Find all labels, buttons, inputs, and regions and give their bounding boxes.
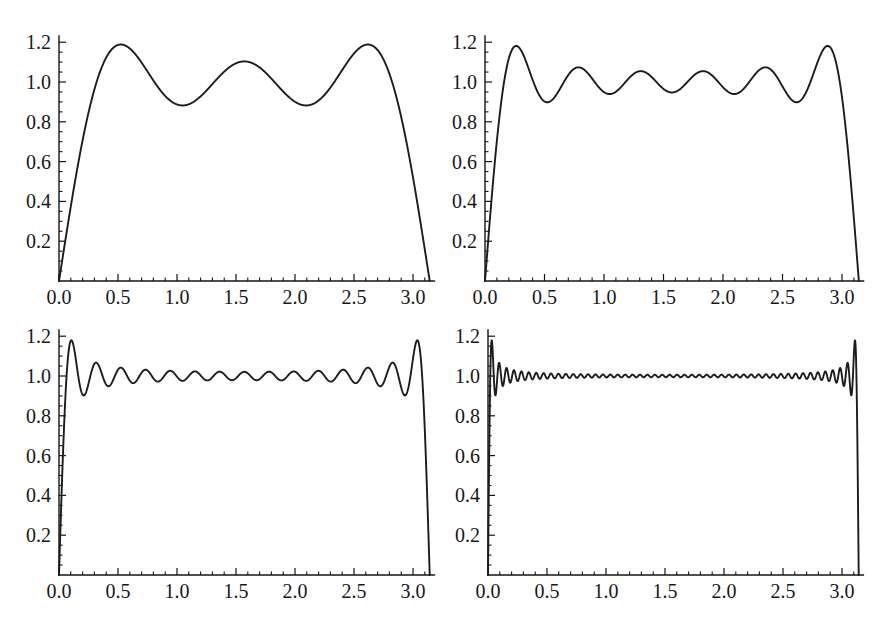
fourier-partial-sum-curve-S15 (59, 340, 430, 575)
x-tick-label: 2.0 (711, 286, 736, 308)
y-tick-label: 0.8 (26, 405, 51, 427)
x-tick-label: 0.0 (473, 286, 498, 308)
y-tick-label: 0.6 (452, 151, 477, 173)
x-tick-label: 2.0 (712, 580, 737, 602)
x-tick-label: 0.5 (535, 580, 560, 602)
x-tick-label: 1.0 (592, 286, 617, 308)
plot-canvas-top-left: 0.00.51.01.52.02.53.00.20.40.60.81.01.2 (0, 0, 443, 313)
x-tick-label: 1.5 (651, 286, 676, 308)
y-tick-label: 0.6 (26, 151, 51, 173)
y-tick-label: 0.2 (26, 230, 51, 252)
y-tick-label: 1.0 (26, 71, 51, 93)
fourier-partial-sum-curve-S50 (488, 340, 859, 575)
x-tick-label: 0.0 (476, 580, 501, 602)
x-tick-label: 2.5 (342, 286, 367, 308)
y-tick-label: 1.0 (455, 365, 480, 387)
y-tick-label: 0.6 (455, 445, 480, 467)
y-tick-label: 0.2 (455, 524, 480, 546)
y-tick-label: 0.4 (26, 190, 51, 212)
x-tick-label: 1.5 (224, 580, 249, 602)
x-tick-label: 3.0 (830, 580, 855, 602)
x-tick-label: 0.0 (47, 286, 72, 308)
plot-partial-sum-3-terms: 0.00.51.01.52.02.53.00.20.40.60.81.01.2 (0, 0, 443, 313)
x-tick-label: 3.0 (401, 580, 426, 602)
y-tick-label: 1.0 (26, 365, 51, 387)
y-tick-label: 0.4 (455, 484, 480, 506)
plot-canvas-bottom-left: 0.00.51.01.52.02.53.00.20.40.60.81.01.2 (0, 313, 443, 627)
x-tick-label: 3.0 (830, 286, 855, 308)
x-tick-label: 0.0 (47, 580, 72, 602)
y-tick-label: 0.4 (26, 484, 51, 506)
x-tick-label: 0.5 (106, 286, 131, 308)
x-tick-label: 1.0 (165, 286, 190, 308)
y-tick-label: 1.0 (452, 71, 477, 93)
x-tick-label: 3.0 (401, 286, 426, 308)
x-tick-label: 2.0 (283, 580, 308, 602)
y-tick-label: 1.2 (26, 31, 51, 53)
plot-canvas-bottom-right: 0.00.51.01.52.02.53.00.20.40.60.81.01.2 (443, 313, 887, 627)
y-tick-label: 1.2 (452, 31, 477, 53)
x-tick-label: 1.5 (653, 580, 678, 602)
plot-partial-sum-15-terms: 0.00.51.01.52.02.53.00.20.40.60.81.01.2 (0, 313, 443, 627)
x-tick-label: 1.0 (594, 580, 619, 602)
x-tick-label: 2.5 (342, 580, 367, 602)
fourier-partial-sum-curve-S6 (485, 46, 859, 281)
x-tick-label: 0.5 (532, 286, 557, 308)
x-tick-label: 2.5 (771, 580, 796, 602)
fourier-partial-sum-curve-S3 (59, 45, 430, 281)
gibbs-phenomenon-figure: 0.00.51.01.52.02.53.00.20.40.60.81.01.2 … (0, 0, 887, 627)
x-tick-label: 1.0 (165, 580, 190, 602)
x-tick-label: 1.5 (224, 286, 249, 308)
plot-partial-sum-50-terms: 0.00.51.01.52.02.53.00.20.40.60.81.01.2 (443, 313, 887, 627)
y-tick-label: 0.2 (26, 524, 51, 546)
x-tick-label: 2.5 (770, 286, 795, 308)
y-tick-label: 1.2 (455, 325, 480, 347)
x-tick-label: 2.0 (283, 286, 308, 308)
y-tick-label: 0.6 (26, 445, 51, 467)
x-tick-label: 0.5 (106, 580, 131, 602)
plot-canvas-top-right: 0.00.51.01.52.02.53.00.20.40.60.81.01.2 (443, 0, 887, 313)
y-tick-label: 0.8 (455, 405, 480, 427)
y-tick-label: 0.8 (26, 111, 51, 133)
y-tick-label: 0.8 (452, 111, 477, 133)
plot-partial-sum-6-terms: 0.00.51.01.52.02.53.00.20.40.60.81.01.2 (443, 0, 887, 313)
y-tick-label: 0.2 (452, 230, 477, 252)
y-tick-label: 1.2 (26, 325, 51, 347)
y-tick-label: 0.4 (452, 190, 477, 212)
